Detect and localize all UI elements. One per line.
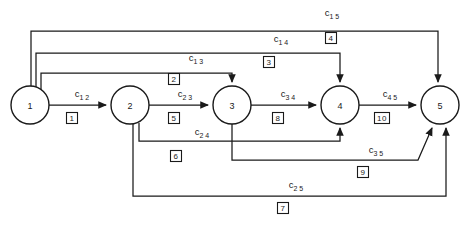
edge-index-box-text-45: 10: [377, 114, 387, 123]
edge-cost-label-14: c1 4: [274, 33, 289, 46]
node-2[interactable]: 2: [111, 86, 149, 124]
edge-cost-label-34: c3 4: [281, 88, 296, 101]
node-5[interactable]: 5: [421, 86, 459, 124]
edge-1-5: [31, 31, 438, 92]
edge-index-box-text-12: 1: [70, 114, 75, 123]
network-diagram-svg: 12345 c1 2c2 3c3 4c4 5c1 3c1 4c1 5c2 4c3…: [0, 0, 470, 230]
edge-cost-label-23: c2 3: [178, 88, 193, 101]
edge-3-5: [232, 124, 432, 160]
edge-cost-label-15: c1 5: [325, 7, 340, 20]
node-3[interactable]: 3: [213, 86, 251, 124]
edge-cost-label-45: c4 5: [383, 88, 398, 101]
edge-cost-label-24: c2 4: [195, 126, 210, 139]
node-1[interactable]: 1: [11, 86, 49, 124]
edge-index-box-text-15: 4: [329, 34, 334, 43]
node-label-2: 2: [127, 101, 132, 111]
edge-index-box-13[interactable]: 2: [169, 74, 180, 85]
node-label-3: 3: [229, 101, 234, 111]
edge-index-box-24[interactable]: 6: [171, 151, 182, 162]
node-label-5: 5: [437, 101, 442, 111]
edge-index-box-25[interactable]: 7: [278, 203, 289, 214]
edge-index-box-14[interactable]: 3: [264, 57, 275, 68]
node-label-1: 1: [27, 101, 32, 111]
edge-index-box-45[interactable]: 10: [375, 113, 390, 124]
edge-index-box-text-14: 3: [267, 58, 272, 67]
edge-cost-label-25: c2 5: [289, 179, 304, 192]
edge-index-box-text-13: 2: [172, 75, 177, 84]
edge-index-box-23[interactable]: 5: [169, 113, 180, 124]
node-4[interactable]: 4: [321, 86, 359, 124]
edge-index-box-34[interactable]: 8: [273, 113, 284, 124]
edge-2-4: [139, 123, 340, 141]
edge-index-box-text-34: 8: [276, 114, 281, 123]
edge-index-box-text-35: 9: [361, 168, 366, 177]
edge-cost-label-13: c1 3: [189, 52, 204, 65]
edge-index-box-text-23: 5: [172, 114, 177, 123]
edge-index-box-35[interactable]: 9: [358, 167, 369, 178]
network-diagram-canvas: 12345 c1 2c2 3c3 4c4 5c1 3c1 4c1 5c2 4c3…: [0, 0, 470, 230]
edge-cost-label-35: c3 5: [369, 144, 384, 157]
node-label-4: 4: [337, 101, 342, 111]
edge-index-box-text-25: 7: [281, 204, 286, 213]
edge-cost-label-12: c1 2: [75, 88, 90, 101]
edge-index-box-12[interactable]: 1: [67, 113, 78, 124]
edge-index-box-15[interactable]: 4: [326, 33, 337, 44]
edge-index-box-text-24: 6: [174, 152, 179, 161]
